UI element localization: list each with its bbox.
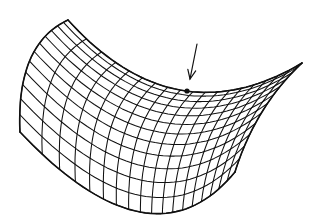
mesh-line-u [51, 31, 286, 109]
mesh-line-u [30, 61, 262, 144]
saddle-surface-svg [0, 0, 320, 222]
front-edge [20, 132, 235, 214]
mesh-line-u [58, 26, 293, 102]
mesh-line-u [64, 22, 298, 96]
saddle-diagram [0, 0, 320, 222]
mesh-line-u [26, 72, 256, 156]
mesh-line-u [68, 20, 302, 92]
mesh-line-u [23, 85, 250, 169]
mesh-line-u [21, 99, 245, 183]
mesh-line-v [152, 92, 193, 214]
back-edge [68, 20, 302, 92]
saddle-point-marker [184, 88, 189, 93]
